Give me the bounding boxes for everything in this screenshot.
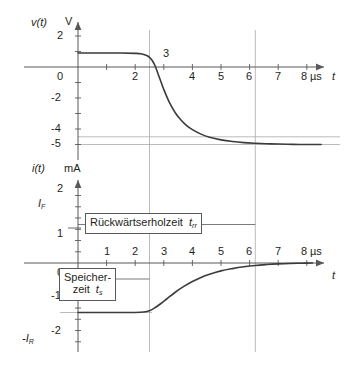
upper-ytick-2: 2 [57,30,63,41]
storage-time-line2-wrap: zeit ts [64,283,111,297]
recovery-time-subscript: rr [192,222,197,229]
lower-xtick-3: 3 [161,246,167,257]
upper-x-axis-unit: µs [310,71,322,82]
lower-x-axis [24,260,324,267]
lower-xtick-4: 4 [189,246,195,257]
lower-ytick-1: 1 [57,228,63,239]
reverse-current-subscript: R [29,338,34,345]
lower-xtick-5: 5 [218,246,224,257]
vertical-guide-lines [150,30,256,352]
forward-current-subscript: F [41,203,45,210]
upper-ytick-minus2: -2 [51,92,61,103]
upper-y-axis [75,22,82,160]
upper-y-axis-unit: V [65,16,72,27]
upper-y-axis-label: v(t) [31,17,47,28]
lower-xtick-7: 7 [275,246,281,257]
upper-reference-lines [78,137,340,145]
lower-xtick-6: 6 [246,246,252,257]
diode-reverse-recovery-figure: v(t) V 2 0 -2 -4 -5 2 3 4 5 6 7 8 µs t i… [0,0,346,379]
upper-ytick-minus5: -5 [51,138,61,149]
upper-xtick-4: 4 [189,71,195,82]
storage-time-subscript: s [99,289,103,296]
upper-xtick-5: 5 [218,71,224,82]
lower-y-axis [75,180,82,352]
forward-current-label: IF [38,198,45,210]
lower-ytick-2: 2 [57,183,63,194]
upper-xtick-6: 6 [246,71,252,82]
lower-xtick-2: 2 [132,246,138,257]
upper-xtick-8: 8 [301,71,307,82]
figure-canvas [0,0,346,379]
upper-ytick-minus4: -4 [51,123,61,134]
reverse-current-label: -IR [22,333,34,345]
upper-xtick-3: 3 [163,48,169,59]
recovery-time-annotation: Rückwärtserholzeit trr [85,213,202,234]
storage-time-text-line2: zeit [73,283,90,295]
storage-time-text-line1: Speicher- [64,271,111,283]
lower-y-axis-label: i(t) [32,163,45,174]
upper-xtick-2: 2 [132,71,138,82]
lower-x-axis-unit: µs [310,246,322,257]
lower-y-axis-unit: mA [64,163,81,174]
reverse-current-symbol: -I [22,332,29,344]
storage-time-annotation: Speicher- zeit ts [59,268,116,301]
upper-xtick-7: 7 [275,71,281,82]
upper-ytick-0: 0 [57,71,63,82]
lower-xtick-1: 1 [104,246,110,257]
recovery-time-text: Rückwärtserholzeit [90,216,183,228]
lower-ytick-minus2: -2 [51,325,61,336]
lower-x-axis-label: t [332,270,335,281]
upper-x-axis-label: t [332,71,335,82]
lower-xtick-8: 8 [301,246,307,257]
